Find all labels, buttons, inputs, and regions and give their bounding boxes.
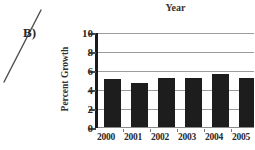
screenshot-root: B) Year Percent Growth 0246810 200020012… bbox=[0, 0, 254, 150]
x-tick-label-2002: 2002 bbox=[147, 132, 174, 142]
x-tick-label-2001: 2001 bbox=[120, 132, 147, 142]
pen-stroke-line bbox=[0, 0, 60, 100]
x-axis-baseline bbox=[97, 127, 254, 128]
bar-2000 bbox=[104, 79, 121, 127]
x-tick-label-2005: 2005 bbox=[228, 132, 255, 142]
prompt-label: B) bbox=[23, 25, 36, 41]
x-tick-label-2000: 2000 bbox=[93, 132, 120, 142]
bar-2002 bbox=[158, 78, 175, 127]
x-tick-label-2003: 2003 bbox=[174, 132, 201, 142]
y-tick-label-2: 2 bbox=[68, 103, 93, 115]
bar-2003 bbox=[185, 78, 202, 127]
x-tick-label-2004: 2004 bbox=[201, 132, 228, 142]
bar-2005 bbox=[239, 78, 254, 127]
plot-area bbox=[97, 33, 254, 128]
y-tick-label-10: 10 bbox=[68, 27, 93, 39]
y-tick-label-8: 8 bbox=[68, 46, 93, 58]
gridline-6 bbox=[97, 71, 254, 72]
y-tick-label-4: 4 bbox=[68, 84, 93, 96]
chart-title: Year bbox=[97, 2, 254, 13]
bar-2004 bbox=[212, 74, 229, 127]
y-axis-line bbox=[95, 33, 98, 128]
gridline-8 bbox=[97, 52, 254, 53]
y-tick-label-0: 0 bbox=[68, 122, 93, 134]
bar-2001 bbox=[131, 83, 148, 127]
gridline-10 bbox=[97, 33, 254, 34]
y-tick-label-6: 6 bbox=[68, 65, 93, 77]
